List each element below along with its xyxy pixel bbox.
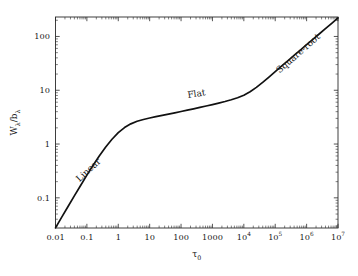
x-tick-label: 0.01	[46, 232, 64, 242]
y-tick-label: 0.1	[37, 193, 50, 203]
x-tick-label: 0.1	[80, 232, 93, 242]
x-tick-label: 104	[237, 231, 251, 241]
regime-label: Flat	[187, 87, 207, 100]
y-tick-label: 1	[45, 139, 50, 149]
x-tick-label: 106	[300, 231, 314, 241]
x-tick-label: 10	[144, 232, 154, 242]
x-tick-label: 1	[116, 232, 121, 242]
y-axis-tick-labels: 0.1110100	[34, 31, 50, 202]
x-tick-label: 100	[173, 232, 189, 242]
plot-canvas: 0.010.11101001000104105106107 0.1110100 …	[0, 0, 358, 276]
regime-label: Square-root	[274, 31, 322, 75]
x-tick-label: 1000	[202, 232, 223, 242]
y-tick-label: 100	[34, 31, 50, 41]
x-axis-title: τ0	[192, 249, 201, 261]
x-tick-label: 105	[268, 231, 282, 241]
y-tick-label: 10	[40, 85, 50, 95]
regime-label: Linear	[74, 156, 103, 184]
x-axis-tick-labels: 0.010.11101001000104105106107	[46, 231, 345, 241]
y-axis-title: Wλ/bλ	[9, 109, 21, 135]
x-tick-label: 107	[331, 231, 345, 241]
curve-of-growth-figure: 0.010.11101001000104105106107 0.1110100 …	[0, 0, 358, 276]
